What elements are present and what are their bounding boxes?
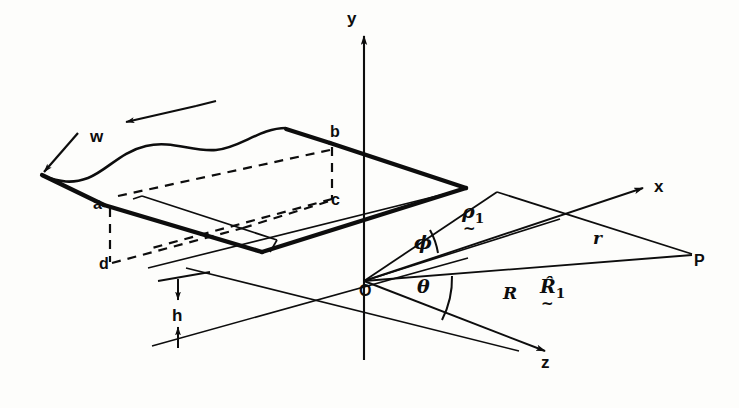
angle-label-phi: ϕ [414,233,432,252]
point-label-d: d [99,256,109,272]
z-axis-line [364,281,545,351]
origin-label: O [359,283,371,299]
point-label-P: P [694,253,705,269]
dimension-label-w: w [90,128,103,145]
scalar-label-r: r [593,230,602,247]
diagram-vector-graphics [0,0,739,408]
axis-label-y: y [347,10,356,27]
point-label-a: a [93,196,102,212]
plate-thickness-band [133,196,277,252]
axis-label-x: x [654,178,663,195]
scalar-label-R: R [503,285,517,302]
point-label-b: b [330,124,340,140]
vector-label-rho1: ρ1 ~ [462,202,484,234]
point-label-c: c [331,192,340,208]
angle-label-theta: θ [417,277,430,296]
vector-label-Rhat1: R̂1 ~ [540,277,565,309]
axis-label-z: z [541,354,550,371]
dimension-w [44,101,216,172]
vector-Rhat1-undertilde: ~ [541,300,565,308]
vector-rho1-undertilde: ~ [463,225,484,233]
dimension-label-h: h [172,307,182,324]
plate-outline [42,129,466,252]
figure-canvas: y x z O a b c d P w h ϕ θ R r ρ1 ~ R̂1 ~ [0,0,739,408]
axis-group [364,36,643,360]
